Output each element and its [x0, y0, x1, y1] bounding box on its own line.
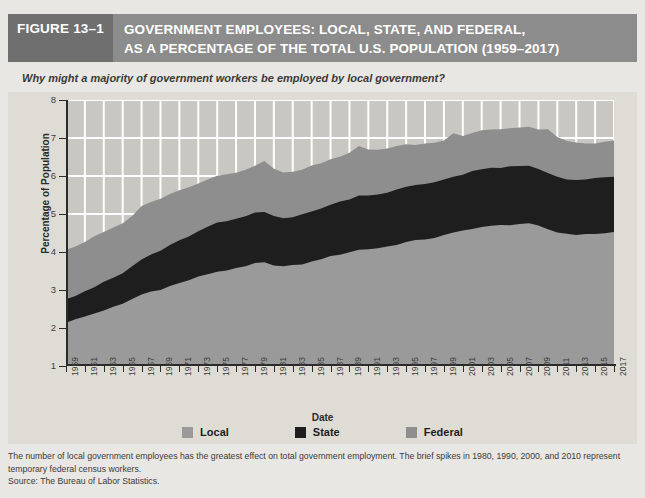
y-tick-mark [59, 214, 67, 215]
x-tick-mark [501, 366, 502, 372]
plot-area [66, 100, 614, 366]
figure-container: FIGURE 13–1 GOVERNMENT EMPLOYEES: LOCAL,… [0, 0, 645, 498]
x-tick-label: 2011 [561, 358, 571, 376]
footnote-body: The number of local government employees… [8, 451, 620, 474]
footnote-source: Source: The Bureau of Labor Statistics. [8, 475, 637, 488]
x-tick-mark [255, 366, 256, 372]
x-tick-mark [160, 366, 161, 372]
y-tick-mark [59, 366, 67, 367]
x-tick-label: 2015 [599, 357, 609, 376]
x-tick-mark [425, 366, 426, 372]
x-tick-mark [387, 366, 388, 372]
y-tick-label: 5 [34, 208, 56, 219]
x-tick-label: 1997 [429, 357, 439, 376]
legend-swatch [182, 427, 193, 438]
y-tick-label: 2 [34, 322, 56, 333]
x-tick-mark [444, 366, 445, 372]
x-tick-label: 1965 [127, 357, 137, 376]
x-tick-label: 2005 [505, 357, 515, 376]
x-tick-label: 1983 [297, 357, 307, 376]
x-tick-mark [85, 366, 86, 372]
y-tick-mark [59, 176, 67, 177]
x-tick-label: 1959 [70, 357, 80, 376]
x-tick-mark [217, 366, 218, 372]
y-tick-mark [59, 252, 67, 253]
x-tick-label: 1987 [335, 357, 345, 376]
x-tick-label: 1963 [108, 357, 118, 376]
x-tick-label: 1985 [316, 357, 326, 376]
figure-title-line2: AS A PERCENTAGE OF THE TOTAL U.S. POPULA… [124, 39, 559, 58]
x-tick-mark [557, 366, 558, 372]
y-tick-label: 8 [34, 94, 56, 105]
x-tick-mark [104, 366, 105, 372]
x-tick-label: 1981 [278, 357, 288, 376]
x-tick-label: 2017 [618, 357, 628, 376]
y-tick-mark [59, 328, 67, 329]
legend-item: Federal [406, 426, 463, 438]
x-tick-label: 1993 [391, 357, 401, 376]
x-axis-title: Date [8, 412, 637, 423]
figure-title-line1: GOVERNMENT EMPLOYEES: LOCAL, STATE, AND … [124, 22, 525, 37]
x-tick-label: 1971 [183, 357, 193, 376]
legend-item: State [295, 426, 340, 438]
legend-label: Federal [424, 426, 463, 438]
x-tick-mark [463, 366, 464, 372]
chart-legend: LocalStateFederal [8, 426, 637, 438]
legend-label: State [313, 426, 340, 438]
stacked-area-chart [66, 100, 614, 366]
x-tick-label: 1989 [353, 357, 363, 376]
x-tick-label: 1967 [146, 357, 156, 376]
x-tick-mark [482, 366, 483, 372]
y-tick-label: 4 [34, 246, 56, 257]
x-tick-label: 2003 [486, 357, 496, 376]
x-tick-label: 1977 [240, 357, 250, 376]
y-tick-mark [59, 290, 67, 291]
x-tick-label: 2009 [542, 357, 552, 376]
x-tick-mark [198, 366, 199, 372]
x-tick-mark [312, 366, 313, 372]
x-tick-mark [614, 366, 615, 372]
x-tick-label: 1969 [164, 357, 174, 376]
y-tick-label: 1 [34, 360, 56, 371]
x-tick-label: 1973 [202, 357, 212, 376]
x-tick-mark [123, 366, 124, 372]
x-tick-label: 1991 [372, 357, 382, 376]
x-tick-mark [595, 366, 596, 372]
x-tick-mark [406, 366, 407, 372]
x-tick-mark [274, 366, 275, 372]
y-tick-label: 6 [34, 170, 56, 181]
x-tick-label: 2007 [524, 357, 534, 376]
x-tick-mark [538, 366, 539, 372]
x-tick-label: 2001 [467, 357, 477, 376]
x-tick-mark [520, 366, 521, 372]
x-tick-mark [368, 366, 369, 372]
x-tick-label: 1995 [410, 357, 420, 376]
x-tick-mark [142, 366, 143, 372]
figure-title: GOVERNMENT EMPLOYEES: LOCAL, STATE, AND … [113, 14, 559, 62]
x-tick-label: 2013 [580, 357, 590, 376]
x-tick-mark [331, 366, 332, 372]
x-tick-label: 1961 [89, 357, 99, 376]
figure-header: FIGURE 13–1 GOVERNMENT EMPLOYEES: LOCAL,… [8, 14, 637, 62]
legend-swatch [406, 427, 417, 438]
x-tick-mark [576, 366, 577, 372]
x-tick-mark [349, 366, 350, 372]
legend-label: Local [200, 426, 229, 438]
x-tick-mark [236, 366, 237, 372]
y-tick-mark [59, 138, 67, 139]
figure-footnote: The number of local government employees… [8, 450, 637, 488]
y-axis-line [66, 100, 68, 366]
x-tick-mark [179, 366, 180, 372]
figure-question: Why might a majority of government worke… [22, 72, 445, 84]
x-tick-label: 1975 [221, 357, 231, 376]
figure-number: FIGURE 13–1 [8, 14, 113, 62]
legend-swatch [295, 427, 306, 438]
chart-card: Percentage of Population 12345678 195919… [8, 92, 637, 444]
legend-item: Local [182, 426, 229, 438]
x-tick-mark [293, 366, 294, 372]
x-tick-label: 1999 [448, 357, 458, 376]
y-tick-label: 3 [34, 284, 56, 295]
x-tick-label: 1979 [259, 357, 269, 376]
y-axis-labels: 12345678 [30, 92, 56, 392]
y-tick-mark [59, 100, 67, 101]
